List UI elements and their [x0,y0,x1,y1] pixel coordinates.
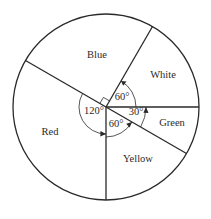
divider-blue-red [26,61,107,108]
green-arc-arrowhead [143,107,148,113]
label-yellow: Yellow [123,153,153,164]
label-green: Green [159,117,185,128]
angle-label-green: 30° [129,106,144,117]
angle-label-red: 120° [84,105,104,116]
label-white: White [150,69,176,80]
divider-yellow-green [106,107,187,154]
white-arc-arrowhead [121,81,127,86]
angle-label-white: 60° [115,91,130,102]
red-arc-arrowhead [100,131,106,137]
pie-chart: Blue White Red Green Yellow 60° 120° 60°… [0,0,211,219]
label-red: Red [42,126,60,137]
yellow-arc-arrowhead [126,122,132,128]
label-blue: Blue [87,49,107,60]
angle-label-yellow: 60° [109,118,124,129]
